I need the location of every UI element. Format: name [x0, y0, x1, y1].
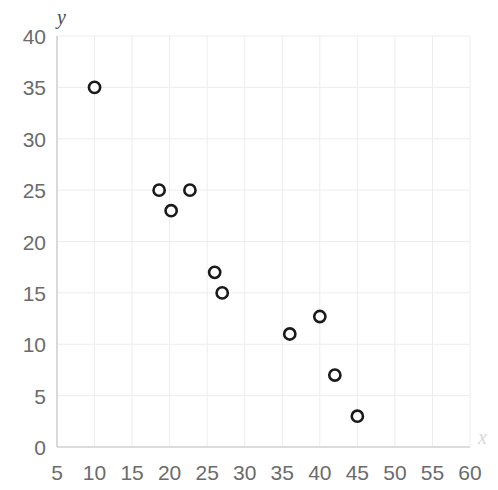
data-point [184, 185, 195, 196]
data-points-group [89, 82, 363, 422]
y-tick-label: 40 [0, 26, 46, 47]
data-point [209, 267, 220, 278]
x-tick-label: 55 [421, 462, 444, 483]
x-tick-label: 60 [458, 462, 481, 483]
x-tick-label: 10 [83, 462, 106, 483]
plot-area-svg [0, 0, 498, 490]
y-tick-label: 20 [0, 231, 46, 252]
y-tick-label: 30 [0, 128, 46, 149]
y-tick-label: 35 [0, 77, 46, 98]
x-tick-label: 20 [158, 462, 181, 483]
y-axis-title: y [57, 7, 66, 27]
y-tick-label: 15 [0, 282, 46, 303]
x-tick-label: 15 [120, 462, 143, 483]
y-tick-label: 0 [0, 437, 46, 458]
x-tick-label: 25 [195, 462, 218, 483]
data-point [166, 205, 177, 216]
gridlines-group [57, 36, 470, 447]
x-tick-label: 5 [51, 462, 63, 483]
x-tick-label: 50 [383, 462, 406, 483]
y-tick-label: 5 [0, 385, 46, 406]
scatter-chart: 0510152025303540 51015202530354045505560… [0, 0, 498, 490]
data-point [217, 287, 228, 298]
x-tick-label: 35 [271, 462, 294, 483]
y-tick-label: 25 [0, 180, 46, 201]
data-point [89, 82, 100, 93]
data-point [329, 369, 340, 380]
data-point [314, 311, 325, 322]
x-axis-title: x [478, 427, 487, 447]
x-tick-label: 45 [346, 462, 369, 483]
data-point [284, 328, 295, 339]
x-tick-label: 30 [233, 462, 256, 483]
data-point [154, 185, 165, 196]
data-point [352, 411, 363, 422]
x-tick-label: 40 [308, 462, 331, 483]
y-tick-label: 10 [0, 334, 46, 355]
